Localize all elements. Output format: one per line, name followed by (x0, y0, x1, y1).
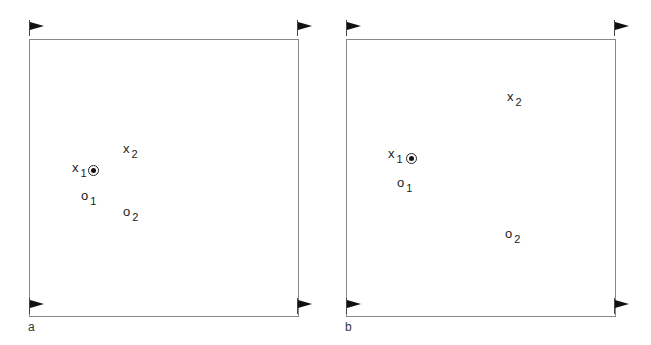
target-icon (88, 165, 99, 176)
marker-label: x (123, 141, 130, 156)
corner-flag-icon (346, 20, 364, 36)
corner-flag-icon (297, 298, 315, 314)
marker-subscript: 1 (406, 182, 412, 194)
panel-label: b (345, 320, 352, 334)
marker-label: o (505, 226, 512, 241)
marker-label: x (388, 146, 395, 161)
marker-label: x (72, 160, 79, 175)
marker-subscript: 2 (514, 233, 520, 245)
marker-subscript: 1 (397, 153, 403, 165)
panel-label: a (28, 320, 35, 334)
corner-flag-icon (614, 20, 632, 36)
marker-label: o (123, 204, 130, 219)
marker-label: o (81, 188, 88, 203)
corner-flag-icon (346, 298, 364, 314)
field-boundary (29, 39, 299, 317)
marker-x1: x1 (72, 161, 87, 179)
marker-subscript: 1 (81, 167, 87, 179)
marker-o1: o1 (397, 176, 412, 194)
panel-b: x2 x1 o1 o2 b (317, 0, 643, 345)
panel-a: x2 x1 o1 o2 a (0, 0, 326, 345)
marker-o2: o2 (123, 205, 138, 223)
marker-o2: o2 (505, 227, 520, 245)
marker-label: x (507, 89, 514, 104)
marker-label: o (397, 175, 404, 190)
corner-flag-icon (29, 298, 47, 314)
marker-subscript: 2 (516, 96, 522, 108)
corner-flag-icon (29, 20, 47, 36)
marker-subscript: 2 (132, 148, 138, 160)
marker-subscript: 1 (90, 195, 96, 207)
corner-flag-icon (614, 298, 632, 314)
marker-o1: o1 (81, 189, 96, 207)
marker-x2: x2 (123, 142, 138, 160)
target-icon (406, 153, 417, 164)
field-boundary (346, 39, 616, 317)
marker-x2: x2 (507, 90, 522, 108)
marker-x1: x1 (388, 147, 403, 165)
marker-subscript: 2 (132, 211, 138, 223)
corner-flag-icon (297, 20, 315, 36)
